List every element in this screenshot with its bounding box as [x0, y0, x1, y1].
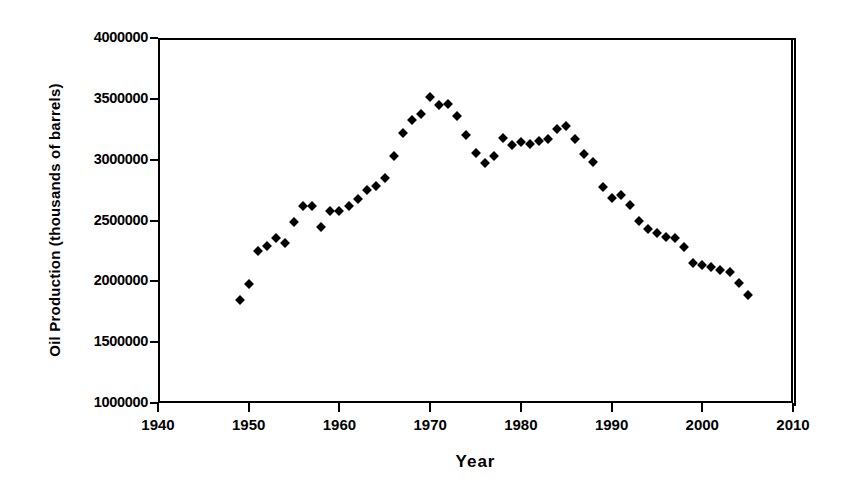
- x-tick-mark: [611, 403, 613, 412]
- data-point: [480, 158, 490, 168]
- y-tick-label: 4000000: [8, 29, 148, 45]
- x-tick-mark: [520, 403, 522, 412]
- data-point: [625, 200, 635, 210]
- data-point: [380, 173, 390, 183]
- data-point: [471, 148, 481, 158]
- data-point: [616, 190, 626, 200]
- data-point: [634, 216, 644, 226]
- x-tick-mark: [792, 403, 794, 412]
- data-point: [407, 115, 417, 125]
- data-point: [561, 121, 571, 131]
- data-point: [271, 233, 281, 243]
- data-point: [262, 241, 272, 251]
- data-point: [498, 133, 508, 143]
- y-tick-label: 3000000: [8, 151, 148, 167]
- data-point: [534, 136, 544, 146]
- data-point: [334, 206, 344, 216]
- data-point: [244, 280, 254, 290]
- x-tick-label: 1960: [299, 416, 379, 433]
- data-point: [452, 111, 462, 121]
- data-point: [579, 149, 589, 159]
- y-tick-mark: [150, 341, 158, 343]
- data-point: [289, 217, 299, 227]
- data-point: [353, 194, 363, 204]
- data-point: [371, 181, 381, 191]
- data-point: [543, 134, 553, 144]
- x-tick-mark: [429, 403, 431, 412]
- x-tick-mark: [248, 403, 250, 412]
- data-point: [734, 278, 744, 288]
- x-tick-label: 1980: [481, 416, 561, 433]
- x-tick-label: 2000: [662, 416, 742, 433]
- y-tick-mark: [150, 220, 158, 222]
- y-tick-label: 2500000: [8, 212, 148, 228]
- data-point: [253, 246, 263, 256]
- data-point: [679, 242, 689, 252]
- data-point: [316, 222, 326, 232]
- y-tick-label: 1500000: [8, 333, 148, 349]
- data-point: [416, 109, 426, 119]
- data-point: [670, 233, 680, 243]
- data-point: [362, 185, 372, 195]
- x-tick-label: 1940: [118, 416, 198, 433]
- data-point: [598, 182, 608, 192]
- data-point: [588, 157, 598, 167]
- x-tick-mark: [701, 403, 703, 412]
- x-tick-label: 2010: [753, 416, 833, 433]
- y-tick-label: 2000000: [8, 272, 148, 288]
- data-point: [344, 201, 354, 211]
- x-axis-title: Year: [158, 452, 793, 472]
- x-tick-label: 1990: [572, 416, 652, 433]
- data-point: [570, 134, 580, 144]
- x-tick-label: 1950: [209, 416, 289, 433]
- data-point: [743, 290, 753, 300]
- data-point: [443, 99, 453, 109]
- data-point: [389, 151, 399, 161]
- data-point: [280, 238, 290, 248]
- y-tick-label: 3500000: [8, 90, 148, 106]
- y-tick-mark: [150, 37, 158, 39]
- plot-area: [158, 38, 793, 403]
- x-tick-label: 1970: [390, 416, 470, 433]
- data-point: [516, 137, 526, 147]
- y-tick-mark: [150, 159, 158, 161]
- oil-production-scatter-chart: Oil Production (thousands of barrels) 10…: [0, 0, 846, 490]
- x-tick-mark: [157, 403, 159, 412]
- data-point: [235, 295, 245, 305]
- x-tick-mark: [338, 403, 340, 412]
- data-point: [489, 151, 499, 161]
- y-tick-mark: [150, 280, 158, 282]
- data-point: [725, 267, 735, 277]
- data-point: [461, 130, 471, 140]
- data-point: [425, 92, 435, 102]
- data-point: [307, 201, 317, 211]
- y-tick-label: 1000000: [8, 394, 148, 410]
- data-point: [715, 265, 725, 275]
- y-tick-mark: [150, 98, 158, 100]
- data-point: [398, 128, 408, 138]
